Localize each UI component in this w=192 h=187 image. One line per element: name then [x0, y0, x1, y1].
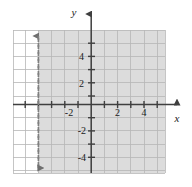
y-tick-label-4: 4 [79, 51, 84, 62]
graph-canvas: -2 2 4 4 2 -2 -4 y x [0, 0, 192, 187]
y-tick-label-neg4: -4 [78, 152, 86, 163]
y-tick-label-neg2: -2 [78, 125, 86, 136]
x-tick-label-2: 2 [115, 107, 120, 118]
y-axis-label: y [71, 6, 77, 18]
x-tick-label-neg2: -2 [65, 107, 73, 118]
x-tick-label-4: 4 [142, 107, 147, 118]
coordinate-plane-figure: -2 2 4 4 2 -2 -4 y x [0, 0, 192, 187]
x-axis-label: x [174, 112, 180, 124]
shaded-solution-region [38, 30, 165, 173]
y-tick-label-2: 2 [79, 78, 84, 89]
